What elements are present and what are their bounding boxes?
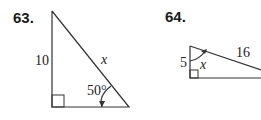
leg-label-64: 5 (180, 55, 187, 71)
hypotenuse-label-63: x (101, 52, 107, 68)
problem-number-64: 64. (165, 8, 186, 25)
problem-number-63: 63. (13, 9, 34, 26)
right-angle-marker-63 (52, 95, 64, 107)
arrowhead-63 (99, 101, 105, 107)
leg-label-63: 10 (35, 53, 49, 69)
angle-label-64: x (200, 57, 206, 73)
right-angle-marker-64 (190, 70, 198, 78)
hypotenuse-label-64: 16 (236, 45, 250, 61)
angle-label-63: 50° (87, 83, 107, 99)
